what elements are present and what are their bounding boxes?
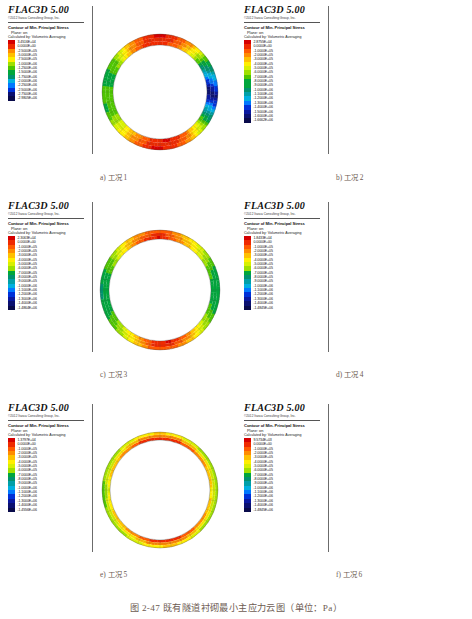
contour-panel-case-6: FLAC3D 5.00©2012 Itasca Consulting Group… — [236, 398, 472, 594]
figure-sheet: FLAC3D 5.00©2012 Itasca Consulting Group… — [0, 0, 472, 619]
ring-contour-plot-case-6 — [244, 402, 472, 582]
subfigure-caption-case-4: d) 工况 4 — [336, 368, 364, 379]
contour-panel-case-1: FLAC3D 5.00©2012 Itasca Consulting Group… — [0, 0, 236, 196]
ring-contour-plot-case-1 — [8, 4, 244, 184]
subfigure-caption-case-5: e) 工况 5 — [100, 568, 127, 579]
ring-contour-plot-case-5 — [8, 402, 244, 582]
ring-contour-plot-case-2 — [244, 4, 472, 184]
figure-caption: 图 2-47 既有隧道衬砌最小主应力云图（单位：Pa） — [0, 600, 472, 614]
subfigure-caption-case-3: c) 工况 3 — [100, 368, 127, 379]
subfigure-caption-case-6: f) 工况 6 — [336, 568, 362, 579]
ring-contour-plot-case-4 — [244, 200, 472, 380]
contour-panel-case-3: FLAC3D 5.00©2012 Itasca Consulting Group… — [0, 196, 236, 392]
contour-panel-case-4: FLAC3D 5.00©2012 Itasca Consulting Group… — [236, 196, 472, 392]
contour-panel-case-2: FLAC3D 5.00©2012 Itasca Consulting Group… — [236, 0, 472, 196]
ring-contour-plot-case-3 — [8, 200, 244, 380]
subfigure-caption-case-1: a) 工况 1 — [100, 171, 127, 182]
subfigure-caption-case-2: b) 工况 2 — [336, 171, 364, 182]
contour-panel-case-5: FLAC3D 5.00©2012 Itasca Consulting Group… — [0, 398, 236, 594]
